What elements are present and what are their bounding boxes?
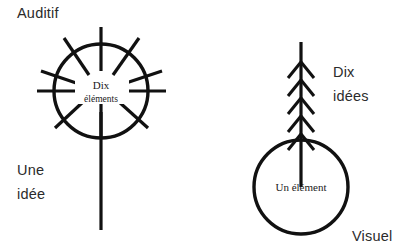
branch-left-3 bbox=[288, 98, 301, 114]
label-dix-idees-line1: Dix bbox=[333, 64, 355, 80]
label-auditif: Auditif bbox=[17, 5, 59, 21]
diagram-svg: Dix éléments Un élément bbox=[0, 0, 409, 252]
branch-right-4 bbox=[301, 116, 314, 132]
left-figure-inner-label-line1: Dix bbox=[93, 79, 110, 91]
label-dix-idees-line2: idées bbox=[333, 88, 369, 104]
label-une-idee-line1: Une bbox=[17, 162, 44, 178]
label-visuel: Visuel bbox=[352, 228, 392, 244]
right-figure-inner-label: Un élément bbox=[275, 181, 326, 193]
branch-right-3 bbox=[301, 98, 314, 114]
branch-left-4 bbox=[288, 116, 301, 132]
branch-left-1 bbox=[288, 62, 301, 78]
left-figure-inner-label-line2: éléments bbox=[84, 94, 118, 104]
branch-left-2 bbox=[288, 80, 301, 96]
branch-right-1 bbox=[301, 62, 314, 78]
branch-right-2 bbox=[301, 80, 314, 96]
label-une-idee-line2: idée bbox=[17, 186, 45, 202]
diagram-canvas: Dix éléments Un élément bbox=[0, 0, 409, 252]
left-figure-group: Dix éléments bbox=[37, 27, 166, 230]
